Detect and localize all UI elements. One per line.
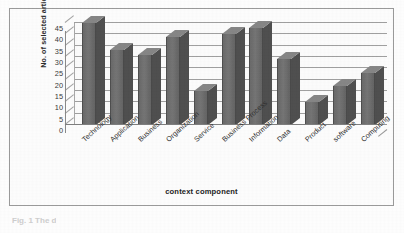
bar-front-face [166,37,180,125]
bar-front-face [222,34,236,125]
y-tick-label: 10 [55,104,63,112]
y-tick-label: 35 [55,48,63,56]
bar [82,23,96,125]
y-tick-label: 15 [55,93,63,101]
bar [110,50,124,125]
y-axis-title: No. of selected articles [39,0,48,83]
bar-side-face [124,43,133,125]
bar-front-face [333,86,347,125]
bar [138,55,152,125]
y-tick-label: 45 [55,25,63,33]
bar-front-face [82,23,96,125]
bar-side-face [236,27,245,125]
bar-front-face [305,102,319,125]
bar-side-face [180,30,189,125]
depth-tick [65,15,74,23]
bar [166,37,180,125]
bar-front-face [138,55,152,125]
bar [305,102,319,125]
y-tick-label: 40 [55,36,63,44]
chart-frame: No. of selected articles 051015202530354… [9,8,394,206]
y-tick-label: 0 [59,127,63,135]
y-axis-tick-labels: 051015202530354045 [48,21,63,133]
bar-side-face [291,52,300,125]
bar-side-face [152,48,161,125]
y-tick-label: 30 [55,59,63,67]
y-tick-label: 25 [55,70,63,78]
figure-caption-fragment: Fig. 1 The d [12,216,56,225]
bar-side-face [263,21,272,125]
bar-front-face [361,73,375,125]
bar-front-face [277,59,291,125]
bar-side-face [96,16,105,125]
y-tick-label: 20 [55,82,63,90]
figure-page: No. of selected articles 051015202530354… [0,0,404,233]
bar [222,34,236,125]
plot-area [65,23,387,133]
x-axis-title: context component [10,187,393,196]
bar [277,59,291,125]
bar [333,86,347,125]
y-tick-label: 5 [59,116,63,124]
bar-series [65,23,387,133]
x-axis-line [65,124,379,125]
bar-front-face [110,50,124,125]
bar [361,73,375,125]
